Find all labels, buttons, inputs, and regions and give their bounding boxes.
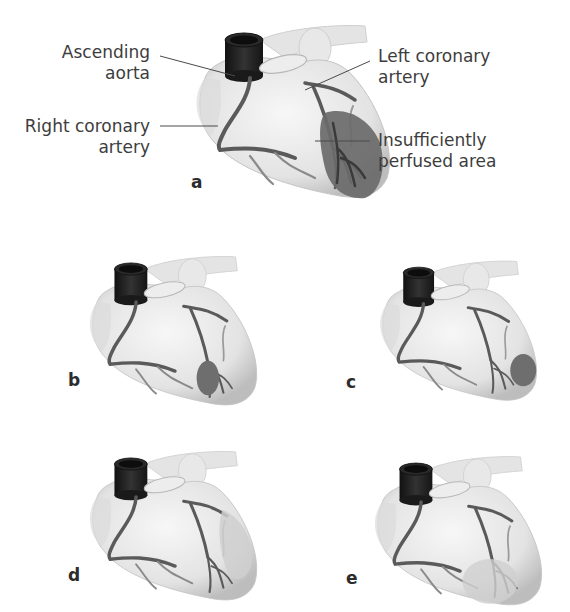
- label-insufficiently-perfused-area: Insufficiently perfused area: [378, 130, 496, 172]
- leader-left-coronary: [305, 61, 370, 90]
- label-ascending-aorta: Ascending aorta: [62, 42, 150, 84]
- leader-lines: [0, 0, 570, 612]
- panel-letter-c: c: [346, 372, 356, 392]
- panel-letter-d: d: [68, 565, 80, 585]
- panel-letter-a: a: [191, 172, 202, 192]
- panel-letter-e: e: [346, 568, 358, 588]
- panel-letter-b: b: [68, 370, 80, 390]
- leader-ascending-aorta: [160, 56, 235, 76]
- label-right-coronary-artery: Right coronary artery: [25, 116, 150, 158]
- label-left-coronary-artery: Left coronary artery: [378, 46, 490, 88]
